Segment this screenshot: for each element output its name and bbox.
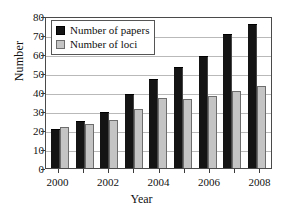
bar: [208, 96, 217, 168]
bar: [51, 129, 60, 168]
bar-chart-figure: Number 80706050403020100 200020022004200…: [0, 0, 283, 217]
y-tick-mark: [41, 150, 45, 151]
bar: [223, 34, 232, 168]
bar: [134, 109, 143, 168]
bar: [248, 24, 257, 168]
bar: [232, 91, 241, 168]
legend-label: Number of papers: [70, 24, 149, 36]
x-tick-label: 2006: [189, 175, 229, 189]
x-tick-label: 2002: [88, 175, 128, 189]
x-tick-mark: [108, 169, 109, 173]
bar: [60, 127, 69, 168]
bar-group: [248, 18, 266, 168]
x-tick-label: 2008: [239, 175, 279, 189]
y-tick-mark: [41, 93, 45, 94]
y-tick-mark: [41, 17, 45, 18]
bar: [158, 98, 167, 168]
x-tick-label: 2000: [38, 175, 78, 189]
x-axis-title: Year: [0, 192, 283, 207]
bar: [85, 124, 94, 168]
y-tick-mark: [41, 55, 45, 56]
x-tick-mark: [83, 169, 84, 173]
y-tick-mark: [41, 36, 45, 37]
legend-label: Number of loci: [70, 38, 137, 50]
x-tick-label: 2004: [139, 175, 179, 189]
bar: [149, 79, 158, 168]
bar: [76, 121, 85, 168]
x-tick-mark: [159, 169, 160, 173]
y-tick-mark: [41, 169, 45, 170]
bar: [109, 120, 118, 168]
bar: [183, 99, 192, 168]
legend-item: Number of loci: [56, 37, 149, 51]
x-axis-tick-labels: 20002002200420062008: [0, 175, 283, 191]
x-tick-mark: [184, 169, 185, 173]
x-tick-mark: [209, 169, 210, 173]
x-tick-mark: [58, 169, 59, 173]
y-tick-mark: [41, 74, 45, 75]
y-tick-mark: [41, 112, 45, 113]
x-tick-mark: [234, 169, 235, 173]
bar-group: [199, 18, 217, 168]
bar: [257, 86, 266, 168]
bar: [100, 112, 109, 168]
legend-item: Number of papers: [56, 23, 149, 37]
y-tick-mark: [41, 131, 45, 132]
bar: [174, 67, 183, 168]
bar-group: [174, 18, 192, 168]
x-tick-mark: [259, 169, 260, 173]
bar-group: [223, 18, 241, 168]
chart-legend: Number of papersNumber of loci: [51, 20, 155, 55]
x-tick-mark: [133, 169, 134, 173]
legend-swatch-papers: [56, 26, 65, 35]
bar: [125, 94, 134, 168]
bar: [199, 56, 208, 168]
legend-swatch-loci: [56, 40, 65, 49]
